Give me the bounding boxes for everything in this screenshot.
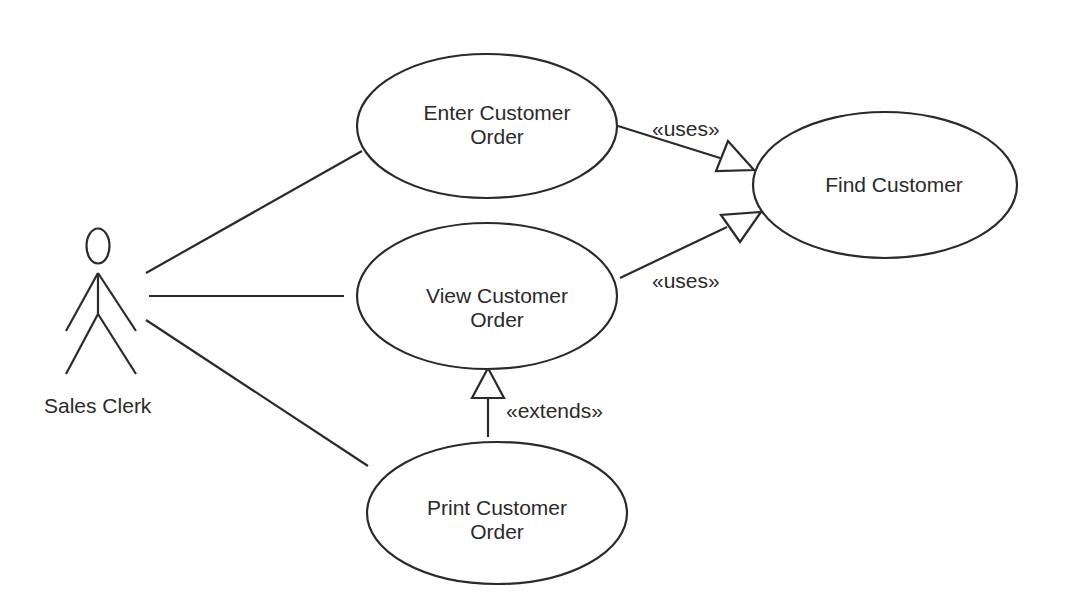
use-case-find-customer[interactable]: Find Customer [753, 112, 1017, 258]
use-case-label: Enter Customer [423, 101, 570, 124]
use-case-label: Order [470, 125, 524, 148]
extends-label: «extends» [506, 399, 603, 422]
use-case-label: Order [470, 308, 524, 331]
use-case-print-customer-order[interactable]: Print Customer Order [367, 442, 627, 584]
use-case-label: Print Customer [427, 496, 567, 519]
uses-label-2: «uses» [652, 269, 720, 292]
association-actor-print[interactable] [146, 320, 368, 466]
use-case-diagram: Sales Clerk «uses» «uses» «extends» Ente… [0, 0, 1067, 604]
actor-label: Sales Clerk [44, 394, 152, 417]
use-case-label: View Customer [426, 284, 568, 307]
uses-label-1: «uses» [652, 117, 720, 140]
actor-head-icon [87, 229, 110, 264]
generalization-arrowhead-icon [472, 368, 504, 398]
use-case-view-customer-order[interactable]: View Customer Order [357, 223, 617, 369]
uses-enter-find[interactable]: «uses» [618, 117, 754, 171]
association-actor-enter[interactable] [146, 151, 362, 273]
use-case-enter-customer-order[interactable]: Enter Customer Order [357, 54, 617, 198]
use-case-label: Find Customer [825, 173, 963, 196]
generalization-arrowhead-icon [716, 141, 754, 171]
actor-sales-clerk[interactable]: Sales Clerk [44, 229, 152, 418]
extends-print-view[interactable]: «extends» [472, 368, 603, 437]
uses-view-find[interactable]: «uses» [620, 212, 761, 292]
use-case-label: Order [470, 520, 524, 543]
